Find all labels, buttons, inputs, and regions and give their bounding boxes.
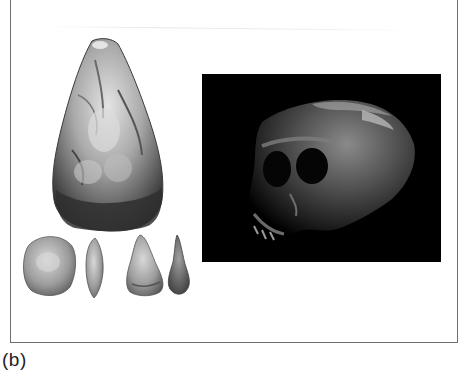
- triangular-tool: [127, 235, 163, 296]
- skull-photo: [202, 74, 441, 262]
- figure-caption-label: (b): [2, 349, 27, 371]
- point-tool: [168, 235, 189, 294]
- skull-icon: [202, 74, 441, 262]
- leaf-flake-tool: [86, 238, 103, 298]
- disc-tool: [23, 237, 75, 296]
- hand-axe: [53, 39, 163, 232]
